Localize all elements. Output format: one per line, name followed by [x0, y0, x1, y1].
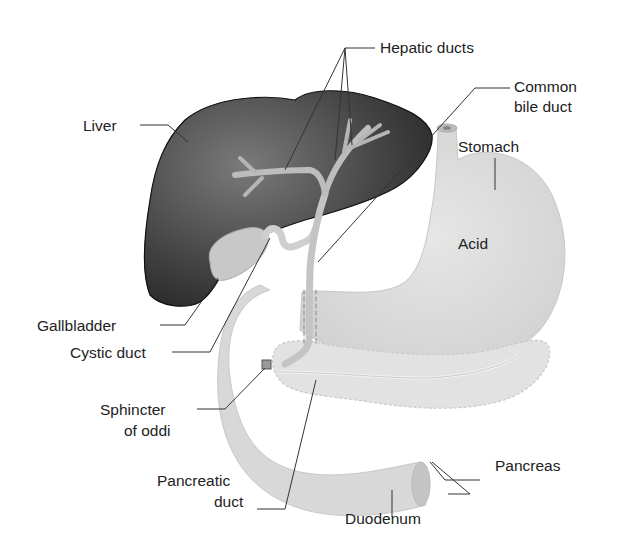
label-cystic-duct: Cystic duct: [70, 343, 146, 362]
label-gallbladder: Gallbladder: [37, 316, 116, 335]
label-hepatic-ducts: Hepatic ducts: [380, 38, 474, 57]
label-common-bile-duct-line2: bile duct: [514, 97, 572, 116]
label-pancreatic-duct-line1: Pancreatic: [157, 471, 230, 490]
label-pancreatic-duct-line2: duct: [214, 492, 243, 511]
label-stomach: Stomach: [458, 137, 519, 156]
label-duodenum: Duodenum: [345, 509, 421, 528]
label-acid: Acid: [458, 234, 488, 253]
anatomy-diagram: Hepatic ducts Common bile duct Liver Sto…: [0, 0, 632, 548]
liver-shape: [144, 91, 432, 306]
label-common-bile-duct-line1: Common: [514, 77, 577, 96]
label-liver: Liver: [83, 116, 117, 135]
label-sphincter-line2: of oddi: [124, 421, 171, 440]
label-pancreas: Pancreas: [495, 456, 560, 475]
label-sphincter-line1: Sphincter: [100, 400, 165, 419]
